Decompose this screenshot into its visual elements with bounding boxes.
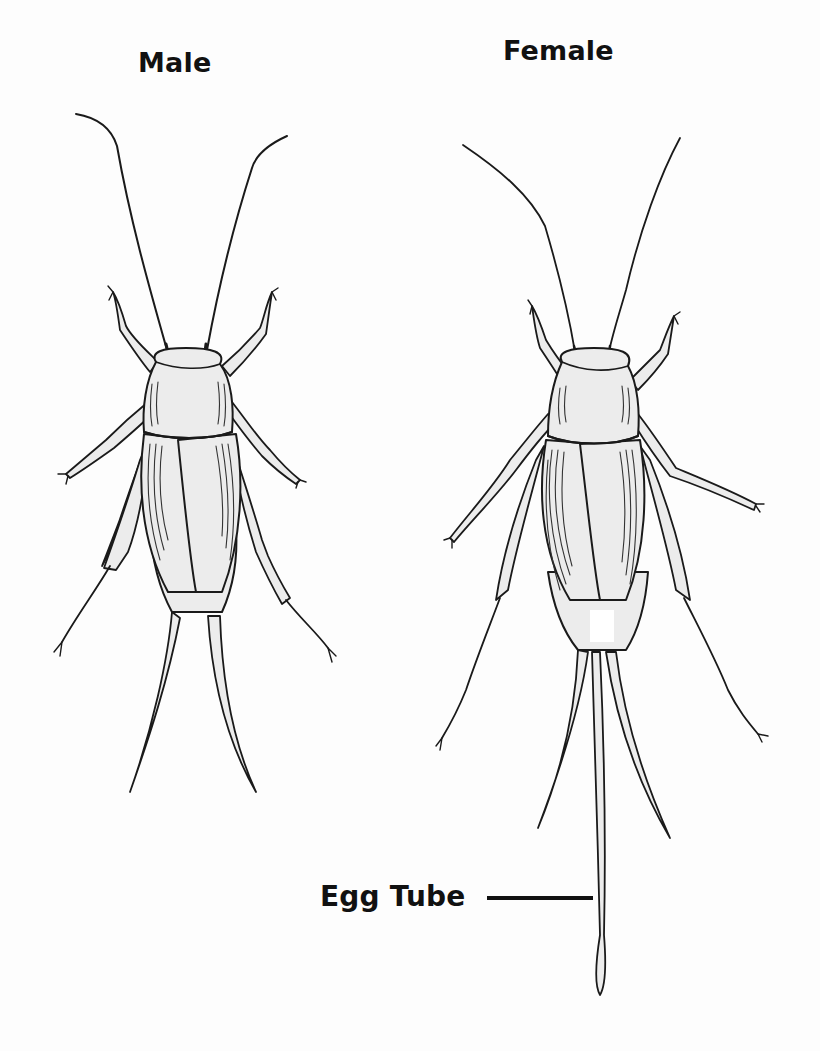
female-antennae [463, 138, 680, 354]
female-cricket-figure [436, 138, 768, 995]
male-cricket-figure [54, 114, 336, 792]
cricket-diagram: Male Female Egg Tube [0, 0, 820, 1051]
female-abdomen-highlight [590, 610, 614, 642]
male-pronotum [144, 348, 233, 438]
female-ovipositor [592, 652, 605, 995]
female-wings [542, 440, 644, 600]
cricket-illustration [0, 0, 820, 1051]
male-wings [141, 434, 240, 592]
male-cerci [130, 612, 256, 792]
male-antennae [76, 114, 287, 352]
female-pronotum [548, 348, 639, 444]
